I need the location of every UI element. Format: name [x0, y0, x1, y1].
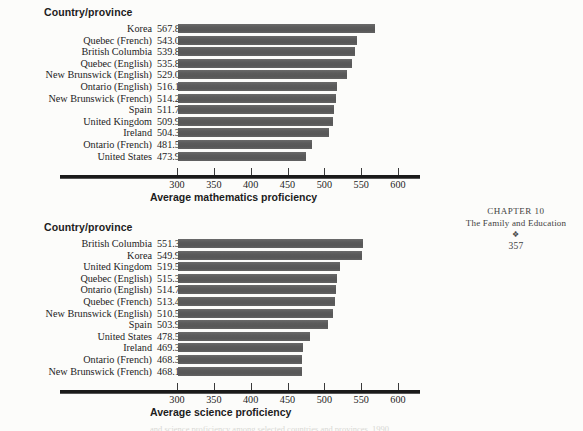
axis-tick-label: 450 — [280, 179, 295, 190]
axis-tick-label: 500 — [317, 179, 332, 190]
bar — [178, 24, 375, 33]
bar-category-label: Korea — [0, 250, 152, 262]
bar — [178, 343, 303, 352]
figure-page: Country/province Korea567.8Quebec (Frenc… — [0, 0, 583, 431]
bar-category-label: United States — [0, 151, 152, 163]
bar — [178, 36, 357, 45]
bar-category-label: Quebec (French) — [0, 296, 152, 308]
bar-row: New Brunswick (French)514.2 — [0, 93, 440, 105]
bar — [178, 285, 336, 294]
page-number: 357 — [452, 240, 580, 253]
axis-tick-label: 500 — [317, 394, 332, 405]
axis-title-mathematics: Average mathematics proficiency — [150, 191, 317, 203]
bar-category-label: Ireland — [0, 342, 152, 354]
axis-tick — [177, 168, 178, 175]
column-header-country-province: Country/province — [44, 221, 133, 233]
bar-row: Ontario (English)516.1 — [0, 81, 440, 93]
axis-tick — [324, 383, 325, 390]
bar-category-label: United Kingdom — [0, 261, 152, 273]
axis-line — [60, 175, 420, 178]
axis-tick — [177, 383, 178, 390]
axis-tick-label: 550 — [354, 394, 369, 405]
figure-caption-cutoff: and science proficiency among selected c… — [150, 424, 530, 431]
axis-tick — [324, 168, 325, 175]
bar-row: United Kingdom519.5 — [0, 261, 440, 273]
bar-category-label: Korea — [0, 23, 152, 35]
axis-tick — [214, 168, 215, 175]
bar-category-label: British Columbia — [0, 46, 152, 58]
bar-category-label: Quebec (French) — [0, 35, 152, 47]
bar-row: New Brunswick (French)468.1 — [0, 366, 440, 378]
bar-row: Spain511.7 — [0, 104, 440, 116]
axis-tick — [251, 383, 252, 390]
bar — [178, 152, 306, 161]
bar-row: Korea549.9 — [0, 250, 440, 262]
ornament-icon: ❖ — [452, 229, 580, 240]
bar-category-label: Spain — [0, 319, 152, 331]
bar — [178, 105, 334, 114]
bar-row: Korea567.8 — [0, 23, 440, 35]
running-head-chapter: CHAPTER 10 — [452, 205, 580, 217]
bar — [178, 59, 352, 68]
bar — [178, 239, 363, 248]
bar-category-label: British Columbia — [0, 238, 152, 250]
bar-row: Ireland504.3 — [0, 127, 440, 139]
bar-category-label: Ireland — [0, 127, 152, 139]
bar-category-label: Ontario (English) — [0, 284, 152, 296]
column-header-country-province: Country/province — [44, 6, 133, 18]
running-head: CHAPTER 10 The Family and Education ❖ 35… — [452, 205, 580, 253]
bar — [178, 274, 337, 283]
axis-tick — [361, 383, 362, 390]
axis-tick-label: 400 — [243, 179, 258, 190]
bar-row: British Columbia539.8 — [0, 46, 440, 58]
bar-category-label: United States — [0, 331, 152, 343]
bar-row: Quebec (French)543.0 — [0, 35, 440, 47]
bar-row: United States478.5 — [0, 331, 440, 343]
bar-category-label: Quebec (English) — [0, 273, 152, 285]
bar-row: Quebec (English)515.3 — [0, 273, 440, 285]
axis-tick — [251, 168, 252, 175]
bar-category-label: Ontario (French) — [0, 139, 152, 151]
bar-row: Ontario (French)468.3 — [0, 354, 440, 366]
bar-category-label: New Brunswick (English) — [0, 69, 152, 81]
bar-category-label: Quebec (English) — [0, 58, 152, 70]
bar-category-label: New Brunswick (French) — [0, 93, 152, 105]
bar-category-label: United Kingdom — [0, 116, 152, 128]
bar-row: Ontario (English)514.7 — [0, 284, 440, 296]
bar-row: Spain503.9 — [0, 319, 440, 331]
bar — [178, 70, 347, 79]
axis-line — [60, 390, 420, 393]
bar — [178, 140, 312, 149]
bar — [178, 262, 340, 271]
bar-row: Quebec (French)513.4 — [0, 296, 440, 308]
bar-category-label: New Brunswick (French) — [0, 366, 152, 378]
bar-row: New Brunswick (English)529.0 — [0, 69, 440, 81]
bar — [178, 332, 310, 341]
axis-tick-label: 550 — [354, 179, 369, 190]
bar-row: United Kingdom509.9 — [0, 116, 440, 128]
bar — [178, 117, 333, 126]
bar — [178, 320, 328, 329]
axis-tick-label: 450 — [280, 394, 295, 405]
bar — [178, 47, 355, 56]
axis-tick-label: 300 — [169, 179, 184, 190]
axis-tick — [398, 168, 399, 175]
axis-tick — [398, 383, 399, 390]
axis-tick — [214, 383, 215, 390]
bar-rows-science: British Columbia551.3Korea549.9United Ki… — [0, 238, 440, 377]
bar-category-label: Ontario (English) — [0, 81, 152, 93]
bar-category-label: Spain — [0, 104, 152, 116]
bar-row: British Columbia551.3 — [0, 238, 440, 250]
axis-tick-label: 300 — [169, 394, 184, 405]
bar-row: Ireland469.3 — [0, 342, 440, 354]
bar — [178, 309, 333, 318]
axis-tick-label: 600 — [390, 179, 405, 190]
bar-rows-mathematics: Korea567.8Quebec (French)543.0British Co… — [0, 23, 440, 162]
bar — [178, 367, 302, 376]
axis-tick — [288, 168, 289, 175]
axis-tick — [288, 383, 289, 390]
axis-title-science: Average science proficiency — [150, 406, 291, 418]
bar-row: United States473.9 — [0, 151, 440, 163]
bar-category-label: Ontario (French) — [0, 354, 152, 366]
bar-category-label: New Brunswick (English) — [0, 308, 152, 320]
